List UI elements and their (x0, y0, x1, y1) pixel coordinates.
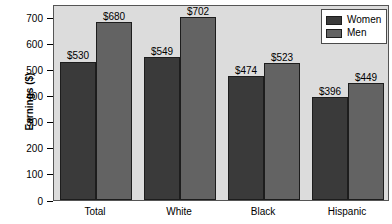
bar-total-men (96, 22, 132, 200)
x-axis-label-hispanic: Hispanic (305, 206, 389, 217)
legend-swatch-women-icon (326, 16, 342, 25)
bar-hispanic-men (348, 83, 384, 200)
bar-white-women (144, 57, 180, 200)
bar-value-label: $396 (308, 86, 352, 97)
y-axis-tick: 700 (26, 12, 53, 24)
x-axis: TotalWhiteBlackHispanic (53, 203, 389, 223)
y-axis-tick: 0 (37, 195, 53, 207)
y-axis-tick-label: 300 (26, 117, 47, 128)
y-axis-tick-label: 100 (26, 169, 47, 180)
bar-black-women (228, 76, 264, 200)
legend-item-men[interactable]: Men (326, 27, 382, 39)
bar-value-label: $549 (140, 46, 184, 57)
y-axis-tick: 200 (26, 143, 53, 155)
legend-label-men: Men (347, 28, 366, 38)
bar-value-label: $702 (176, 6, 220, 17)
y-axis-tick-label: 600 (26, 39, 47, 50)
x-axis-label-total: Total (53, 206, 137, 217)
y-axis-tick-label: 700 (26, 13, 47, 24)
bar-hispanic-women (312, 97, 348, 200)
bar-value-label: $530 (56, 50, 100, 61)
legend-item-women[interactable]: Women (326, 14, 382, 26)
legend-swatch-men-icon (326, 29, 342, 38)
y-axis: 0100200300400500600700 (0, 0, 53, 224)
bar-value-label: $680 (92, 11, 136, 22)
bar-chart: Earnings ($) 0100200300400500600700 $530… (0, 0, 392, 224)
chart-legend: Women Men (321, 9, 387, 44)
bar-value-label: $474 (224, 65, 268, 76)
y-axis-tick: 600 (26, 38, 53, 50)
bar-black-men (264, 63, 300, 200)
y-axis-tick: 100 (26, 169, 53, 181)
bar-value-label: $523 (260, 52, 304, 63)
bar-total-women (60, 62, 96, 201)
y-axis-tick-label: 0 (37, 196, 47, 207)
y-axis-tick: 500 (26, 64, 53, 76)
bar-white-men (180, 17, 216, 200)
x-axis-label-black: Black (221, 206, 305, 217)
y-axis-tick-label: 400 (26, 91, 47, 102)
y-axis-tick: 400 (26, 90, 53, 102)
y-axis-tick: 300 (26, 117, 53, 129)
y-axis-tick-label: 200 (26, 143, 47, 154)
x-axis-label-white: White (137, 206, 221, 217)
bar-value-label: $449 (344, 72, 388, 83)
legend-label-women: Women (347, 15, 381, 25)
y-axis-tick-label: 500 (26, 65, 47, 76)
